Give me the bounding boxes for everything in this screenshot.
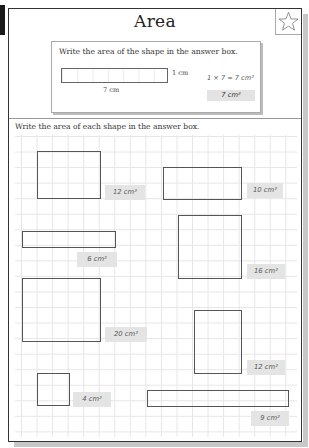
answer-box[interactable]: 20 cm² [105,327,147,342]
shape-rectangle [22,231,116,248]
answer-box[interactable]: 16 cm² [247,264,285,279]
example-calculation: 1 × 7 = 7 cm² [207,74,254,82]
page-edge-tab [0,5,5,35]
answer-box[interactable]: 12 cm² [247,360,285,375]
shape-rectangle [37,151,101,199]
answer-box[interactable]: 9 cm² [251,411,289,426]
answer-box[interactable]: 6 cm² [77,252,117,267]
example-answer-box: 7 cm² [207,90,255,101]
answer-box[interactable]: 4 cm² [73,392,111,407]
shape-rectangle [163,167,242,200]
star-outline-icon [278,11,299,32]
answer-box[interactable]: 12 cm² [105,185,145,200]
example-instruction: Write the area of the shape in the answe… [59,47,238,56]
shape-rectangle [147,390,289,407]
example-height-label: 1 cm [172,69,188,77]
worksheet-page: Area Write the area of the shape in the … [8,8,302,442]
section-instruction: Write the area of each shape in the answ… [15,122,199,131]
shape-rectangle [178,215,242,279]
page-shadow-right [303,14,308,447]
shape-rectangle [22,278,101,342]
star-box [275,9,301,35]
page-shadow-bottom [14,442,308,447]
shape-rectangle [194,310,242,374]
section-divider [9,118,301,119]
example-width-label: 7 cm [103,86,119,94]
shape-rectangle [37,373,70,406]
example-rectangle [61,68,168,83]
grid-area: 12 cm² 10 cm² 16 cm² 6 cm² 20 cm² 12 cm²… [15,135,297,437]
page-title: Area [9,9,301,32]
example-box: Write the area of the shape in the answe… [51,41,261,113]
answer-box[interactable]: 10 cm² [247,183,283,198]
